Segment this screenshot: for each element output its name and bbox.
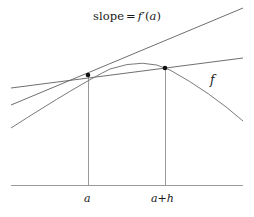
x-axis-label-a-plus-h-operator: + (158, 192, 167, 205)
slope-equation-title: slope=f′(a) (0, 11, 254, 23)
title-lhs: slope (93, 9, 124, 23)
diagram-canvas (0, 0, 254, 217)
secant-line (11, 58, 243, 88)
x-axis-label-a-plus-h: a+h (151, 193, 174, 204)
point-a-marker (86, 73, 91, 78)
title-close-paren: ) (156, 9, 161, 23)
curve-label-f: f (210, 74, 215, 87)
x-axis-label-a-plus-h-offset: h (167, 192, 174, 205)
x-axis-label-a: a (84, 193, 91, 204)
point-a-plus-h-marker (163, 66, 168, 71)
title-operator: = (124, 9, 138, 23)
derivative-diagram: slope=f′(a) a a+h f (0, 0, 254, 217)
